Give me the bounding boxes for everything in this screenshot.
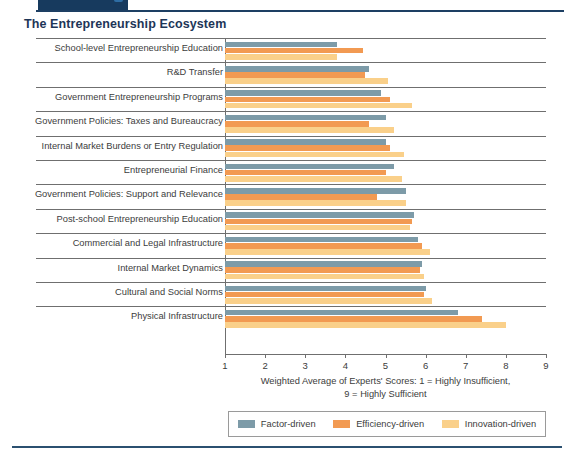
bar-2 <box>225 78 388 84</box>
top-tab-strip: MAKING IT <box>0 0 571 12</box>
x-axis-title: Weighted Average of Experts' Scores: 1 =… <box>225 375 546 400</box>
bar-2 <box>225 127 394 133</box>
chart-rows: School-level Entrepreneurship EducationR… <box>0 38 571 331</box>
chart-row: School-level Entrepreneurship Education <box>0 38 571 62</box>
bar-1 <box>225 145 390 151</box>
category-label: Entrepreneurial Finance <box>124 165 223 175</box>
bar-0 <box>225 42 337 48</box>
chart-row: Internal Market Dynamics <box>0 258 571 282</box>
x-tick-label: 3 <box>295 360 315 371</box>
chart-row: R&D Transfer <box>0 62 571 86</box>
bar-0 <box>225 310 458 316</box>
row-gridline <box>36 184 546 185</box>
bar-1 <box>225 48 363 54</box>
legend-label: Efficiency-driven <box>356 419 424 429</box>
legend-item-1[interactable]: Efficiency-driven <box>333 419 424 429</box>
chart-row: Government Policies: Support and Relevan… <box>0 184 571 208</box>
row-gridline <box>36 111 546 112</box>
legend-label: Factor-driven <box>261 419 316 429</box>
bar-0 <box>225 139 386 145</box>
bar-1 <box>225 219 412 225</box>
bar-2 <box>225 225 410 231</box>
legend-item-0[interactable]: Factor-driven <box>238 419 316 429</box>
bar-1 <box>225 121 369 127</box>
bar-0 <box>225 212 414 218</box>
chart-row: Commercial and Legal Infrastructure <box>0 233 571 257</box>
bar-2 <box>225 152 404 158</box>
bar-2 <box>225 249 430 255</box>
category-label: Cultural and Social Norms <box>115 287 223 297</box>
category-label: Commercial and Legal Infrastructure <box>73 238 223 248</box>
chart-row: Physical Infrastructure <box>0 306 571 330</box>
chart-row: Internal Market Burdens or Entry Regulat… <box>0 136 571 160</box>
x-tick <box>386 354 387 358</box>
bar-1 <box>225 97 390 103</box>
legend-swatch-icon <box>333 420 350 428</box>
x-tick-label: 8 <box>496 360 516 371</box>
category-label: R&D Transfer <box>167 67 223 77</box>
bar-1 <box>225 72 365 78</box>
bar-2 <box>225 274 424 280</box>
row-gridline <box>36 233 546 234</box>
x-tick-label: 5 <box>376 360 396 371</box>
category-label: Government Policies: Taxes and Bureaucra… <box>35 116 223 126</box>
top-tab-label: MAKING IT <box>46 0 124 1</box>
x-tick-label: 2 <box>255 360 275 371</box>
row-gridline <box>36 282 546 283</box>
x-tick <box>345 354 346 358</box>
legend-swatch-icon <box>238 420 255 428</box>
x-tick-label: 6 <box>416 360 436 371</box>
row-gridline <box>36 38 546 39</box>
chart-row: Post-school Entrepreneurship Education <box>0 209 571 233</box>
row-gridline <box>36 306 546 307</box>
chart-row: Government Policies: Taxes and Bureaucra… <box>0 111 571 135</box>
legend-label: Innovation-driven <box>465 419 536 429</box>
category-label: School-level Entrepreneurship Education <box>55 43 223 53</box>
x-tick-label: 1 <box>215 360 235 371</box>
footer-divider <box>12 446 562 448</box>
x-tick-label: 7 <box>456 360 476 371</box>
row-gridline <box>36 136 546 137</box>
category-label: Government Entrepreneurship Programs <box>55 92 223 102</box>
bar-0 <box>225 90 381 96</box>
category-label: Internal Market Burdens or Entry Regulat… <box>42 141 223 151</box>
x-axis-title-line-2: 9 = Highly Sufficient <box>225 388 546 401</box>
header-divider <box>36 10 564 12</box>
category-label: Internal Market Dynamics <box>118 263 223 273</box>
chart-plot-area: School-level Entrepreneurship EducationR… <box>0 38 571 356</box>
row-gridline <box>36 87 546 88</box>
bar-2 <box>225 103 412 109</box>
bar-2 <box>225 298 432 304</box>
bar-0 <box>225 164 394 170</box>
bar-0 <box>225 66 369 72</box>
legend-swatch-icon <box>442 420 459 428</box>
bar-0 <box>225 188 406 194</box>
x-tick-label: 4 <box>335 360 355 371</box>
x-tick <box>225 354 226 358</box>
bar-1 <box>225 316 482 322</box>
row-gridline <box>36 209 546 210</box>
x-tick <box>265 354 266 358</box>
bar-0 <box>225 237 418 243</box>
bar-2 <box>225 54 337 60</box>
badge-icon <box>114 0 123 2</box>
x-tick <box>546 354 547 358</box>
x-tick <box>506 354 507 358</box>
bar-1 <box>225 267 420 273</box>
x-tick <box>426 354 427 358</box>
bar-2 <box>225 322 506 328</box>
category-label: Post-school Entrepreneurship Education <box>57 214 223 224</box>
category-label: Physical Infrastructure <box>131 311 223 321</box>
legend-item-2[interactable]: Innovation-driven <box>442 419 536 429</box>
chart-row: Government Entrepreneurship Programs <box>0 87 571 111</box>
chart-legend: Factor-drivenEfficiency-drivenInnovation… <box>228 411 546 437</box>
bar-0 <box>225 115 386 121</box>
bar-0 <box>225 286 426 292</box>
page-title: The Entrepreneurship Ecosystem <box>24 17 226 31</box>
bar-1 <box>225 194 377 200</box>
bar-0 <box>225 261 422 267</box>
bar-2 <box>225 200 406 206</box>
bar-1 <box>225 292 424 298</box>
category-label: Government Policies: Support and Relevan… <box>35 189 223 199</box>
bar-2 <box>225 176 402 182</box>
